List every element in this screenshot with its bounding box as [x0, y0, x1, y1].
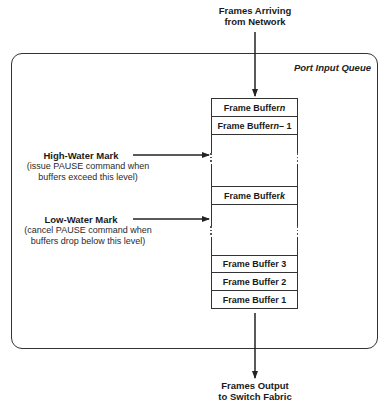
frame-buffer-n-minus-1: Frame Buffer n – 1: [211, 116, 298, 134]
high-water-desc-2: buffers exceed this level): [18, 172, 158, 183]
frame-buffer-n: Frame Buffer n: [211, 98, 298, 116]
buffer-suffix: – 1: [279, 121, 292, 131]
buffer-label: Frame Buffer 2: [223, 277, 287, 287]
buffer-label: Frame Buffer: [217, 121, 273, 131]
frame-buffer-2: Frame Buffer 2: [211, 272, 298, 290]
frame-buffer-k: Frame Buffer k: [211, 186, 298, 204]
ellipsis-dots-right-lower: [297, 226, 299, 237]
buffer-label: Frame Buffer 3: [223, 259, 287, 269]
buffer-gap-lower: [211, 204, 298, 255]
low-water-desc-2: buffers drop below this level): [18, 236, 158, 247]
frame-buffer-1: Frame Buffer 1: [211, 290, 298, 309]
buffer-var: k: [280, 191, 285, 201]
high-water-label: High-Water Mark (issue PAUSE command whe…: [18, 150, 158, 183]
high-water-title: High-Water Mark: [4, 150, 158, 161]
buffer-label: Frame Buffer 1: [223, 295, 287, 305]
output-label: Frames Output to Switch Fabric: [195, 380, 315, 402]
low-water-desc-1: (cancel PAUSE command when: [18, 225, 158, 236]
low-water-label: Low-Water Mark (cancel PAUSE command whe…: [18, 214, 158, 247]
output-label-line-2: to Switch Fabric: [195, 391, 315, 402]
low-water-title: Low-Water Mark: [4, 214, 158, 225]
buffer-gap-upper: [211, 134, 298, 186]
arrows-layer: [0, 0, 389, 409]
buffer-var: n: [280, 103, 286, 113]
ellipsis-dots-left-lower: [210, 226, 212, 237]
buffer-label: Frame Buffer: [224, 191, 280, 201]
buffer-label: Frame Buffer: [224, 103, 280, 113]
high-water-desc-1: (issue PAUSE command when: [18, 161, 158, 172]
output-label-line-1: Frames Output: [195, 380, 315, 391]
ellipsis-dots-right-upper: [297, 153, 299, 164]
ellipsis-dots-left-upper: [210, 153, 212, 164]
frame-buffer-3: Frame Buffer 3: [211, 255, 298, 272]
